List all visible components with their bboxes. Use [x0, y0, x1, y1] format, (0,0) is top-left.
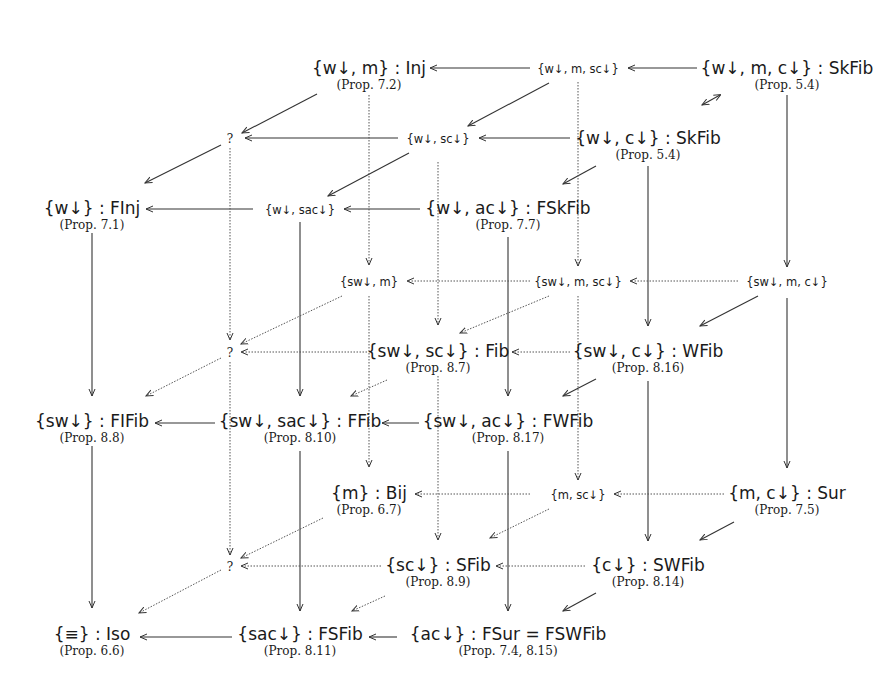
- node-label: {sw↓, sac↓} : FFib: [219, 411, 382, 431]
- node-label: {w↓, c↓} : SkFib: [575, 128, 720, 148]
- prop-reference: (Prop. 8.9): [385, 576, 490, 589]
- unknown-marker: ?: [227, 132, 233, 146]
- prop-reference: (Prop. 8.8): [35, 432, 149, 445]
- node-sw-m: {sw↓, m}: [340, 273, 398, 290]
- node-sac-fsfib: {sac↓} : FSFib (Prop. 8.11): [237, 626, 362, 657]
- node-equiv-iso: {≡} : Iso (Prop. 6.6): [54, 626, 131, 657]
- node-m-bij: {m} : Bij (Prop. 6.7): [331, 485, 407, 516]
- node-label: {sw↓, ac↓} : FWFib: [423, 411, 594, 431]
- node-w-sac: {w↓, sac↓}: [265, 201, 335, 218]
- unknown-marker: ?: [227, 346, 233, 360]
- node-sw-ac-fwfib: {sw↓, ac↓} : FWFib (Prop. 8.17): [423, 413, 594, 444]
- prop-reference: (Prop. 8.10): [219, 432, 382, 445]
- node-label: {sac↓} : FSFib: [237, 624, 362, 644]
- node-sc-sfib: {sc↓} : SFib (Prop. 8.9): [385, 557, 490, 588]
- node-label: {sw↓, c↓} : WFib: [573, 341, 723, 361]
- node-label: {sc↓} : SFib: [385, 555, 490, 575]
- node-label: {ac↓} : FSur = FSWFib: [410, 624, 606, 644]
- node-c-swfib: {c↓} : SWFib (Prop. 8.14): [591, 557, 704, 588]
- node-sw-sc-fib: {sw↓, sc↓} : Fib (Prop. 8.7): [367, 343, 509, 374]
- node-label: {w↓, sc↓}: [407, 132, 470, 146]
- node-w-c-skfib: {w↓, c↓} : SkFib (Prop. 5.4): [575, 130, 720, 161]
- node-sw-m-sc: {sw↓, m, sc↓}: [534, 273, 621, 290]
- node-m-c-sur: {m, c↓} : Sur (Prop. 7.5): [728, 485, 846, 516]
- node-ac-fsur-fswfib: {ac↓} : FSur = FSWFib (Prop. 7.4, 8.15): [410, 626, 606, 657]
- node-sw-c-wfib: {sw↓, c↓} : WFib (Prop. 8.16): [573, 343, 723, 374]
- node-label: {w↓} : FInj: [44, 198, 141, 218]
- node-label: {m, sc↓}: [550, 488, 605, 502]
- node-w-sc: {w↓, sc↓}: [407, 130, 470, 147]
- node-label: {w↓, ac↓} : FSkFib: [425, 198, 590, 218]
- prop-reference: (Prop. 8.11): [237, 645, 362, 658]
- prop-reference: (Prop. 7.1): [44, 219, 141, 232]
- prop-reference: (Prop. 6.7): [331, 504, 407, 517]
- node-m-sc: {m, sc↓}: [550, 486, 605, 503]
- node-w-m-inj: {w↓, m} : Inj (Prop. 7.2): [312, 60, 426, 91]
- node-w-ac-fskfib: {w↓, ac↓} : FSkFib (Prop. 7.7): [425, 200, 590, 231]
- prop-reference: (Prop. 7.4, 8.15): [410, 645, 606, 658]
- node-sw-m-c: {sw↓, m, c↓}: [746, 273, 827, 290]
- node-w-m-c-skfib: {w↓, m, c↓} : SkFib (Prop. 5.4): [701, 60, 874, 91]
- node-label: {w↓, sac↓}: [265, 203, 335, 217]
- prop-reference: (Prop. 7.7): [425, 219, 590, 232]
- prop-reference: (Prop. 5.4): [701, 79, 874, 92]
- node-label: {c↓} : SWFib: [591, 555, 704, 575]
- node-unknown-middle: ?: [227, 344, 233, 361]
- node-label: {sw↓} : FIFib: [35, 411, 149, 431]
- node-label: {m, c↓} : Sur: [728, 483, 846, 503]
- prop-reference: (Prop. 8.7): [367, 362, 509, 375]
- node-label: {sw↓, m, c↓}: [746, 275, 827, 289]
- prop-reference: (Prop. 7.2): [312, 79, 426, 92]
- unknown-marker: ?: [227, 560, 233, 574]
- node-w-m-sc: {w↓, m, sc↓}: [537, 60, 618, 77]
- node-sw-fifib: {sw↓} : FIFib (Prop. 8.8): [35, 413, 149, 444]
- prop-reference: (Prop. 5.4): [575, 149, 720, 162]
- prop-reference: (Prop. 7.5): [728, 504, 846, 517]
- node-unknown-top: ?: [227, 130, 233, 147]
- prop-reference: (Prop. 8.16): [573, 362, 723, 375]
- implication-cube-diagram: {w↓, m} : Inj (Prop. 7.2) {w↓, m, sc↓} {…: [0, 0, 896, 688]
- node-w-finj: {w↓} : FInj (Prop. 7.1): [44, 200, 141, 231]
- node-label: {≡} : Iso: [54, 624, 131, 644]
- node-label: {m} : Bij: [331, 483, 407, 503]
- node-label: {sw↓, m, sc↓}: [534, 275, 621, 289]
- node-label: {w↓, m} : Inj: [312, 58, 426, 78]
- prop-reference: (Prop. 8.17): [423, 432, 594, 445]
- node-label: {w↓, m, sc↓}: [537, 62, 618, 76]
- node-unknown-bottom: ?: [227, 558, 233, 575]
- node-sw-sac-ffib: {sw↓, sac↓} : FFib (Prop. 8.10): [219, 413, 382, 444]
- prop-reference: (Prop. 8.14): [591, 576, 704, 589]
- prop-reference: (Prop. 6.6): [54, 645, 131, 658]
- node-label: {w↓, m, c↓} : SkFib: [701, 58, 874, 78]
- node-label: {sw↓, m}: [340, 275, 398, 289]
- node-label: {sw↓, sc↓} : Fib: [367, 341, 509, 361]
